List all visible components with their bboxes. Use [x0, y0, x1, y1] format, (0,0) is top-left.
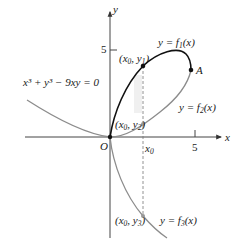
equation-label: x³ + y³ − 9xy = 0: [22, 76, 99, 88]
curve-left-branch: [27, 100, 110, 137]
y-axis-label: y: [112, 3, 118, 15]
point-A-label: A: [195, 64, 203, 76]
y-tick-label: 5: [101, 43, 107, 55]
point-x0-y3-label: (x0, y3): [115, 214, 145, 228]
f1-label: y = f1(x): [157, 36, 195, 50]
x-tick-label: 5: [192, 141, 198, 153]
f2-label: y = f2(x): [178, 101, 216, 115]
x-axis-label: x: [224, 131, 230, 143]
x0-label: x0: [144, 142, 154, 156]
shaded-strip: [134, 75, 142, 113]
origin-label: O: [100, 140, 108, 152]
point-origin: [108, 135, 112, 139]
folium-of-descartes-figure: y x 5 5 O x0 x³ + y³ − 9xy = 0 y = f1(x)…: [0, 0, 238, 252]
point-A: [189, 68, 194, 73]
point-x0-y2-label: (x0, y2): [115, 118, 145, 132]
f3-label: y = f3(x): [159, 214, 197, 228]
point-x0-y1-label: (x0, y1): [119, 52, 149, 66]
